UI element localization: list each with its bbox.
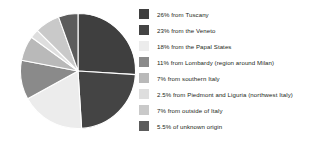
pie-chart-svg xyxy=(20,11,136,131)
chart-legend: 26% from Tuscany 23% from the Veneto 18%… xyxy=(139,6,318,138)
legend-label-lombardy: 11% from Lombardy (region around Milan) xyxy=(157,59,274,66)
legend-label-southern-italy: 7% from southern Italy xyxy=(157,75,220,82)
legend-item-tuscany: 26% from Tuscany xyxy=(139,6,318,22)
legend-item-papal-states: 18% from the Papal States xyxy=(139,38,318,54)
legend-label-papal-states: 18% from the Papal States xyxy=(157,43,232,50)
legend-swatch-outside-italy xyxy=(139,105,149,115)
legend-label-veneto: 23% from the Veneto xyxy=(157,27,215,34)
legend-label-unknown-origin: 5.5% of unknown origin xyxy=(157,123,222,130)
legend-swatch-papal-states xyxy=(139,41,149,51)
legend-swatch-lombardy xyxy=(139,57,149,67)
legend-swatch-piedmont-liguria xyxy=(139,89,149,99)
legend-item-lombardy: 11% from Lombardy (region around Milan) xyxy=(139,54,318,70)
pie-slice xyxy=(78,14,136,75)
legend-item-southern-italy: 7% from southern Italy xyxy=(139,70,318,86)
pie-chart-plot-area xyxy=(20,11,136,131)
pie-slice-group xyxy=(20,14,135,129)
legend-item-outside-italy: 7% from outside of Italy xyxy=(139,102,318,118)
legend-swatch-tuscany xyxy=(139,9,149,19)
legend-item-veneto: 23% from the Veneto xyxy=(139,22,318,38)
legend-swatch-unknown-origin xyxy=(139,121,149,131)
legend-label-piedmont-liguria: 2.5% from Piedmont and Liguria (northwes… xyxy=(157,91,293,98)
legend-swatch-southern-italy xyxy=(139,73,149,83)
pie-slice xyxy=(78,71,135,128)
legend-label-outside-italy: 7% from outside of Italy xyxy=(157,107,223,114)
legend-item-piedmont-liguria: 2.5% from Piedmont and Liguria (northwes… xyxy=(139,86,318,102)
legend-swatch-veneto xyxy=(139,25,149,35)
legend-item-unknown-origin: 5.5% of unknown origin xyxy=(139,118,318,134)
legend-label-tuscany: 26% from Tuscany xyxy=(157,11,209,18)
pie-chart-figure: 26% from Tuscany 23% from the Veneto 18%… xyxy=(0,0,318,142)
